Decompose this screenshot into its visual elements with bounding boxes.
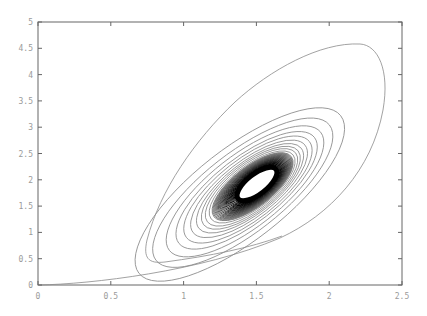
x-tick-label: 2.5 (395, 292, 410, 301)
y-tick-label: 1 (28, 228, 33, 237)
x-axis-ticks: 00.511.522.5 (36, 22, 410, 301)
contour-plot: 00.511.522.5 00.511.522.533.544.55 (0, 0, 427, 316)
y-tick-label: 3.5 (19, 97, 34, 106)
y-tick-label: 0 (28, 281, 33, 290)
y-axis-ticks: 00.511.522.533.544.55 (19, 18, 402, 290)
plot-area (38, 22, 402, 310)
y-tick-label: 1.5 (19, 202, 34, 211)
contour-outer (39, 44, 385, 285)
plot-frame (38, 22, 402, 285)
y-tick-label: 0.5 (19, 255, 34, 264)
contour-lines (39, 44, 385, 310)
y-tick-label: 4 (28, 71, 33, 80)
y-tick-label: 2.5 (19, 150, 34, 159)
x-tick-label: 2 (327, 292, 332, 301)
y-tick-label: 4.5 (19, 44, 34, 53)
x-tick-label: 1.5 (249, 292, 264, 301)
y-tick-label: 5 (28, 18, 33, 27)
x-tick-label: 0 (36, 292, 41, 301)
x-tick-label: 1 (181, 292, 186, 301)
y-tick-label: 2 (28, 176, 33, 185)
y-tick-label: 3 (28, 123, 33, 132)
x-tick-label: 0.5 (104, 292, 119, 301)
